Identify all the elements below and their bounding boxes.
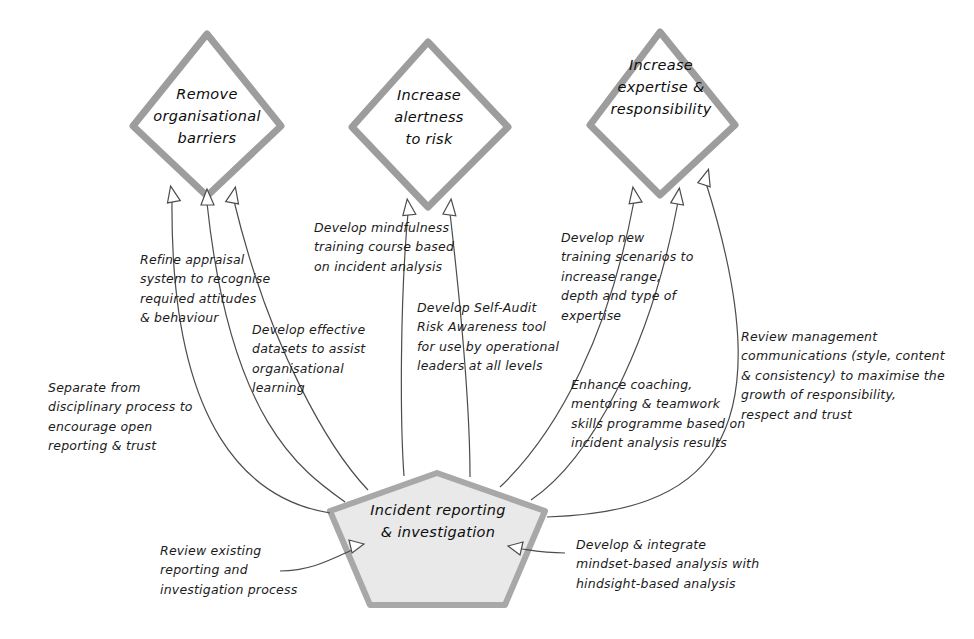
arrow-head-develop-training-scenarios — [627, 186, 642, 204]
action-label-enhance-coaching: Enhance coaching, mentoring & teamwork s… — [571, 375, 749, 453]
action-label-develop-training-scenarios: Develop new training scenarios to increa… — [561, 228, 701, 325]
action-label-review-existing-process: Review existing reporting and investigat… — [160, 541, 320, 599]
node-label-incident-reporting: Incident reporting & investigation — [345, 500, 531, 544]
arrow-head-enhance-coaching — [671, 187, 687, 205]
action-label-separate-disciplinary: Separate from disciplinary process to en… — [48, 378, 228, 456]
node-label-increase-alertness: Increase alertness to risk — [358, 85, 500, 150]
action-label-review-management-comms: Review management communications (style,… — [741, 327, 953, 424]
arrow-head-separate-disciplinary — [165, 185, 181, 203]
diagram-canvas: Remove organisational barriers Increase … — [0, 0, 974, 639]
arrow-head-develop-self-audit — [443, 198, 458, 216]
action-label-develop-datasets: Develop effective datasets to assist org… — [252, 320, 392, 398]
action-label-develop-self-audit: Develop Self-Audit Risk Awareness tool f… — [417, 298, 582, 376]
arrow-head-review-management-comms — [698, 168, 715, 187]
node-label-increase-expertise: Increase expertise & responsibility — [586, 55, 736, 120]
action-label-develop-mindfulness: Develop mindfulness training course base… — [314, 218, 479, 276]
action-label-develop-integrate-mindset: Develop & integrate mindset-based analys… — [576, 535, 776, 593]
action-label-refine-appraisal: Refine appraisal system to recognise req… — [140, 250, 315, 328]
arrow-head-develop-datasets — [226, 186, 242, 204]
arrow-head-develop-mindfulness — [401, 198, 416, 215]
node-label-remove-barriers: Remove organisational barriers — [132, 84, 282, 149]
